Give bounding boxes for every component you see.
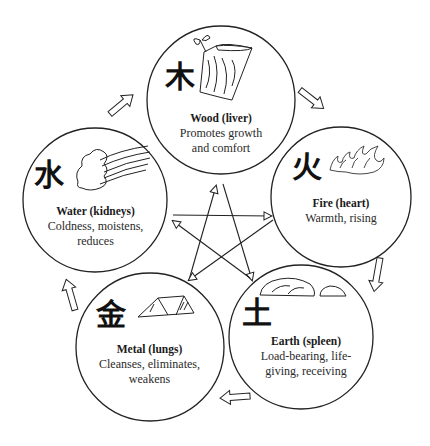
water-title: Water (kidneys) <box>28 204 163 219</box>
arrow-fire-to-earth <box>367 257 387 293</box>
wood-title: Wood (liver) <box>151 111 291 126</box>
earth-title: Earth (spleen) <box>241 334 371 349</box>
water-hanzi: 水 <box>34 160 64 190</box>
wood-label: Wood (liver) Promotes growth and comfort <box>151 111 291 156</box>
metal-label: Metal (lungs) Cleanses, eliminates, weak… <box>82 342 217 387</box>
wood-hanzi: 木 <box>165 62 195 92</box>
arrow-wood-to-earth <box>223 184 252 280</box>
earth-hanzi: 土 <box>242 298 272 328</box>
metal-title: Metal (lungs) <box>82 342 217 357</box>
arrow-earth-to-metal <box>220 389 251 405</box>
arrow-metal-to-water <box>59 277 81 312</box>
arrow-metal-to-wood <box>189 186 216 280</box>
arrow-wood-to-fire <box>296 84 328 114</box>
metal-desc-line-1: Cleanses, eliminates, <box>82 357 217 372</box>
fire-desc-line-1: Warmth, rising <box>276 211 406 226</box>
fire-label: Fire (heart) Warmth, rising <box>276 196 406 226</box>
arrow-water-to-wood <box>106 89 138 119</box>
controlling-cycle-arrows <box>173 184 273 280</box>
wood-desc-line-1: Promotes growth <box>151 126 291 141</box>
metal-hanzi: 金 <box>96 300 126 330</box>
water-label: Water (kidneys) Coldness, moistens, redu… <box>28 204 163 249</box>
fire-title: Fire (heart) <box>276 196 406 211</box>
five-elements-diagram: 木 火 土 金 水 Wood (liver) Promotes growth a… <box>0 0 430 446</box>
arrow-fire-to-metal <box>189 220 273 280</box>
metal-desc-line-2: weakens <box>82 372 217 387</box>
arrow-water-to-fire <box>173 215 271 216</box>
earth-desc-line-1: Load-bearing, life- <box>241 349 371 364</box>
water-desc-line-1: Coldness, moistens, <box>28 219 163 234</box>
earth-label: Earth (spleen) Load-bearing, life- givin… <box>241 334 371 379</box>
earth-desc-line-2: giving, receiving <box>241 364 371 379</box>
wood-desc-line-2: and comfort <box>151 141 291 156</box>
fire-hanzi: 火 <box>292 152 322 182</box>
water-desc-line-2: reduces <box>28 234 163 249</box>
arrow-earth-to-water <box>173 221 250 278</box>
